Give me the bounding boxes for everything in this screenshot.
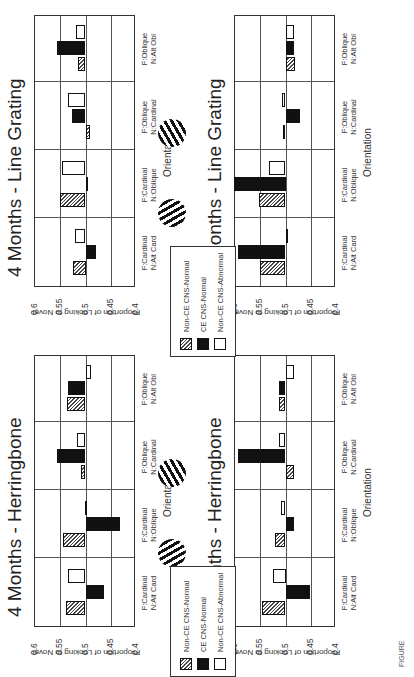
bar-black: [68, 381, 86, 395]
bar-black: [86, 177, 89, 191]
plot-area: [234, 15, 335, 287]
category-line-familiar: F:Oblique: [140, 355, 149, 423]
bar-black: [286, 41, 294, 55]
bar-black: [86, 517, 120, 531]
category-line-familiar: F:Cardinal: [140, 559, 149, 627]
bar-hatch: [66, 601, 86, 615]
category-line-familiar: F:Cardinal: [340, 219, 349, 287]
plot-area: [34, 355, 135, 627]
bar-black: [57, 41, 85, 55]
bar-black: [238, 449, 285, 463]
y-tick-label: 0.4: [330, 303, 340, 315]
bar-black: [72, 109, 86, 123]
x-category-label: F:CardinalN:Alt Card: [340, 219, 358, 287]
category-line-novel: N:Alt Obl: [349, 15, 358, 83]
category-line-novel: N:Alt Obl: [349, 355, 358, 423]
bar-black: [86, 245, 97, 259]
gridline: [111, 16, 112, 286]
y-tick-label: 0.55: [254, 638, 264, 655]
x-category-label: F:ObliqueN:Alt Obl: [340, 355, 358, 423]
bar-white: [86, 365, 91, 379]
bar-white: [281, 501, 285, 515]
category-divider: [35, 489, 134, 490]
category-line-familiar: F:Cardinal: [140, 151, 149, 219]
y-tick-label: 0.5: [80, 643, 90, 655]
category-line-novel: N:Oblique: [149, 151, 158, 219]
rotated-figure-page: 4 Months - HerringboneProportion of Look…: [0, 0, 414, 677]
x-category-label: F:CardinalN:Oblique: [340, 491, 358, 559]
y-tick-label: 0.6: [29, 303, 39, 315]
category-line-familiar: F:Cardinal: [340, 151, 349, 219]
legend-4mo: Non-CE CNS-Normal CE CNS-Normal Non-CE C…: [170, 246, 236, 357]
category-line-novel: N:Cardinal: [149, 83, 158, 151]
category-line-familiar: F:Cardinal: [140, 491, 149, 559]
x-category-label: F:ObliqueN:Alt Obl: [140, 15, 158, 83]
bar-hatch: [275, 533, 286, 547]
category-divider: [235, 81, 334, 82]
category-divider: [235, 149, 334, 150]
bar-white: [269, 161, 286, 175]
x-category-label: F:ObliqueN:Cardinal: [140, 83, 158, 151]
herringbone-stimulus-icon: [158, 119, 186, 147]
category-divider: [235, 557, 334, 558]
y-tick-label: 0.45: [105, 638, 115, 655]
category-line-familiar: F:Cardinal: [340, 491, 349, 559]
y-tick-label: 0.55: [254, 298, 264, 315]
legend-item-ce-normal: CE CNS-Normal: [197, 253, 209, 350]
category-line-novel: N:Alt Card: [149, 219, 158, 287]
herringbone-stimulus-icon: [158, 199, 186, 227]
x-category-label: F:ObliqueN:Cardinal: [140, 423, 158, 491]
bar-hatch: [81, 465, 86, 479]
x-category-label: F:ObliqueN:Cardinal: [340, 423, 358, 491]
bar-black: [57, 449, 86, 463]
gridline: [60, 356, 61, 626]
category-line-novel: N:Oblique: [149, 491, 158, 559]
herringbone-stimulus-icon: [158, 539, 186, 567]
category-divider: [35, 149, 134, 150]
category-line-novel: N:Alt Obl: [149, 355, 158, 423]
category-divider: [235, 421, 334, 422]
bar-hatch: [279, 397, 286, 411]
category-divider: [235, 489, 334, 490]
bar-black: [286, 517, 295, 531]
bar-black: [286, 109, 301, 123]
x-category-label: F:CardinalN:Alt Card: [140, 219, 158, 287]
white-swatch-icon: [214, 658, 226, 670]
plot-area: [234, 355, 335, 627]
y-tick-label: 0.4: [130, 643, 140, 655]
legend-item-non-ce-abnormal: Non-CE CNS-Abnormal: [214, 573, 226, 670]
bar-black: [286, 585, 310, 599]
gridline: [311, 16, 312, 286]
category-line-novel: N:Cardinal: [349, 83, 358, 151]
hatch-swatch-icon: [180, 658, 192, 670]
bar-hatch: [283, 125, 286, 139]
bar-black: [279, 381, 286, 395]
x-category-label: F:CardinalN:Oblique: [340, 151, 358, 219]
y-tick-label: 0.55: [54, 638, 64, 655]
figure-caption: FIGURE: [398, 641, 405, 667]
x-category-label: F:ObliqueN:Alt Obl: [340, 15, 358, 83]
bar-white: [76, 25, 85, 39]
hatch-swatch-icon: [180, 338, 192, 350]
chart-title: 4 Months - Herringbone: [4, 417, 26, 617]
bar-black: [86, 585, 104, 599]
white-swatch-icon: [214, 338, 226, 350]
category-line-familiar: F:Oblique: [340, 423, 349, 491]
legend-item-non-ce-normal: Non-CE CNS-Normal: [180, 573, 192, 670]
bar-white: [286, 229, 288, 243]
category-divider: [35, 217, 134, 218]
legend-item-non-ce-abnormal: Non-CE CNS-Abnormal: [214, 253, 226, 350]
bar-white: [286, 25, 294, 39]
y-tick-label: 0.5: [280, 643, 290, 655]
y-tick-label: 0.5: [80, 303, 90, 315]
bar-hatch: [286, 57, 296, 71]
category-line-novel: N:Cardinal: [349, 423, 358, 491]
y-tick-label: 0.55: [54, 298, 64, 315]
x-category-label: F:CardinalN:Alt Card: [340, 559, 358, 627]
bar-hatch: [286, 465, 295, 479]
bar-white: [286, 365, 295, 379]
herringbone-stimulus-icon: [158, 459, 186, 487]
category-line-novel: N:Alt Obl: [149, 15, 158, 83]
bar-white: [75, 229, 86, 243]
gridline: [111, 356, 112, 626]
